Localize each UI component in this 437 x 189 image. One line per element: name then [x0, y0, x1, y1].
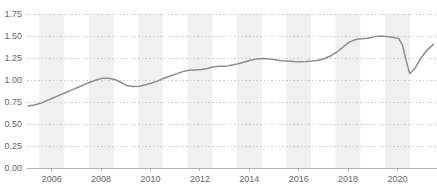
y-axis-tick-labels: 0.000.250.500.751.001.251.501.75: [4, 9, 22, 173]
x-tick-label: 2016: [289, 174, 309, 184]
shaded-band: [89, 14, 114, 168]
shaded-bands-group: [39, 14, 409, 168]
y-tick-label: 1.00: [4, 75, 22, 85]
line-chart: 0.000.250.500.751.001.251.501.75 2006200…: [0, 0, 437, 189]
x-axis-tick-labels: 20062008201020122014201620182020: [42, 168, 408, 184]
x-tick-label: 2014: [239, 174, 259, 184]
y-tick-label: 0.75: [4, 97, 22, 107]
x-tick-label: 2020: [387, 174, 407, 184]
x-tick-label: 2008: [91, 174, 111, 184]
y-tick-label: 0.50: [4, 119, 22, 129]
shaded-band: [237, 14, 262, 168]
y-tick-label: 1.75: [4, 9, 22, 19]
y-tick-label: 0.00: [4, 163, 22, 173]
shaded-band: [39, 14, 64, 168]
chart-canvas: 0.000.250.500.751.001.251.501.75 2006200…: [0, 0, 437, 189]
shaded-band: [188, 14, 213, 168]
y-tick-label: 1.50: [4, 31, 22, 41]
shaded-band: [286, 14, 311, 168]
x-tick-label: 2006: [42, 174, 62, 184]
shaded-band: [336, 14, 361, 168]
x-tick-label: 2012: [190, 174, 210, 184]
x-tick-label: 2010: [140, 174, 160, 184]
y-tick-label: 0.25: [4, 141, 22, 151]
shaded-band: [138, 14, 163, 168]
x-tick-label: 2018: [338, 174, 358, 184]
y-tick-label: 1.25: [4, 53, 22, 63]
